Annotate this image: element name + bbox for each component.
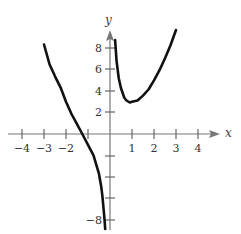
y-axis-label: y [104,13,112,27]
x-tick-label: 1 [129,142,136,155]
y-tick-label: 4 [95,85,102,98]
x-tick-label: 2 [151,142,158,155]
y-tick-label: 8 [95,42,102,55]
x-tick-label: −3 [36,142,52,155]
x-axis-label: x [225,126,232,140]
x-tick-label: −2 [58,142,74,155]
y-tick-label: 2 [95,106,102,119]
x-tick-labels: −4 −3 −2 1 2 3 4 [14,142,202,155]
curve-right-branch [115,30,176,103]
x-tick-label: 3 [173,142,180,155]
y-tick-label: 6 [95,63,102,76]
function-graph: x y −4 −3 −2 1 2 3 4 8 6 4 2 −8 [0,0,241,234]
x-tick-label: −4 [14,142,30,155]
x-tick-label: 4 [195,142,202,155]
y-tick-label: −8 [86,214,102,227]
